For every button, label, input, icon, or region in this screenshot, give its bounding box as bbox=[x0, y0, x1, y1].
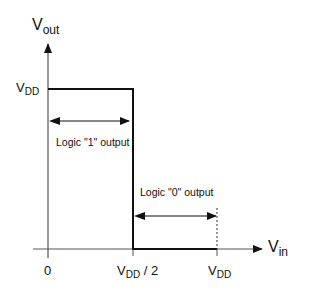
y-tick-vdd: VDD bbox=[16, 80, 39, 97]
transfer-curve bbox=[48, 89, 217, 249]
y-axis-label: Vout bbox=[32, 16, 59, 37]
logic0-label: Logic "0" output bbox=[140, 186, 213, 198]
x-tick-zero: 0 bbox=[44, 263, 51, 278]
logic1-label: Logic "1" output bbox=[56, 136, 129, 148]
diagram-graphics bbox=[0, 0, 314, 294]
vtc-diagram: Vout Vin VDD 0 VDD / 2 VDD Logic "1" out… bbox=[0, 0, 314, 294]
x-axis-label: Vin bbox=[268, 238, 288, 259]
x-tick-vdd-half: VDD / 2 bbox=[117, 263, 158, 280]
x-tick-vdd: VDD bbox=[208, 263, 231, 280]
